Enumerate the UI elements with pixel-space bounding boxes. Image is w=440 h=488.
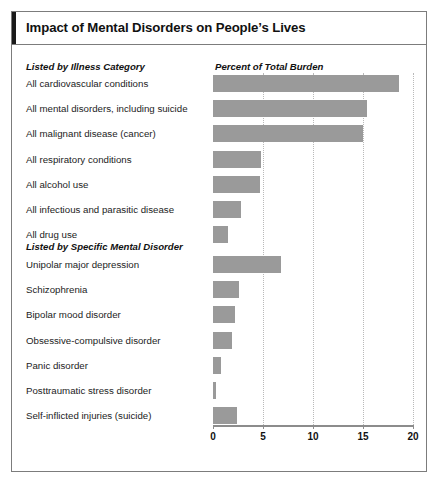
category-label: Self-inflicted injuries (suicide)	[26, 410, 151, 421]
axis-tick-5	[263, 425, 264, 429]
bar	[213, 176, 260, 193]
category-label: All infectious and parasitic disease	[26, 204, 174, 215]
category-label: All cardiovascular conditions	[26, 78, 148, 89]
axis-tick-0	[213, 425, 214, 429]
bar	[213, 201, 241, 218]
bar	[213, 382, 216, 399]
group-header-specific-disorder: Listed by Specific Mental Disorder	[26, 241, 183, 252]
axis-tick-10	[313, 425, 314, 429]
bar	[213, 125, 363, 142]
bar	[213, 332, 232, 349]
category-label: All drug use	[26, 229, 77, 240]
axis-tick-label-10: 10	[307, 431, 318, 442]
axis-tick-label-15: 15	[357, 431, 368, 442]
category-label: Unipolar major depression	[26, 259, 139, 270]
bar	[213, 281, 239, 298]
page-title: Impact of Mental Disorders on People’s L…	[26, 20, 305, 35]
chart-body: Listed by Illness Category Percent of To…	[12, 45, 426, 471]
bar	[213, 306, 235, 323]
category-label: All mental disorders, including suicide	[26, 103, 188, 114]
axis-tick-20	[413, 425, 414, 429]
category-label: Panic disorder	[26, 360, 88, 371]
gridline-15	[363, 73, 364, 425]
category-label: All malignant disease (cancer)	[26, 128, 156, 139]
bar	[213, 407, 237, 424]
category-label: Bipolar mood disorder	[26, 309, 121, 320]
axis-tick-label-0: 0	[210, 431, 216, 442]
category-label: Obsessive-compulsive disorder	[26, 335, 161, 346]
bar	[213, 75, 399, 92]
category-label: Posttraumatic stress disorder	[26, 385, 151, 396]
category-label: All respiratory conditions	[26, 154, 132, 165]
column-header-left: Listed by Illness Category	[26, 61, 145, 72]
plot-area: 05101520	[213, 45, 414, 471]
bar	[213, 226, 228, 243]
axis-tick-15	[363, 425, 364, 429]
bar	[213, 357, 221, 374]
category-label: Schizophrenia	[26, 284, 87, 295]
bar	[213, 100, 367, 117]
axis-tick-label-20: 20	[407, 431, 418, 442]
bar	[213, 256, 281, 273]
chart-figure: Impact of Mental Disorders on People’s L…	[11, 11, 427, 472]
category-label: All alcohol use	[26, 179, 88, 190]
chart-title-band: Impact of Mental Disorders on People’s L…	[12, 12, 426, 45]
bar	[213, 151, 261, 168]
axis-tick-label-5: 5	[260, 431, 266, 442]
title-accent-bar	[12, 12, 16, 44]
gridline-20	[413, 73, 414, 425]
